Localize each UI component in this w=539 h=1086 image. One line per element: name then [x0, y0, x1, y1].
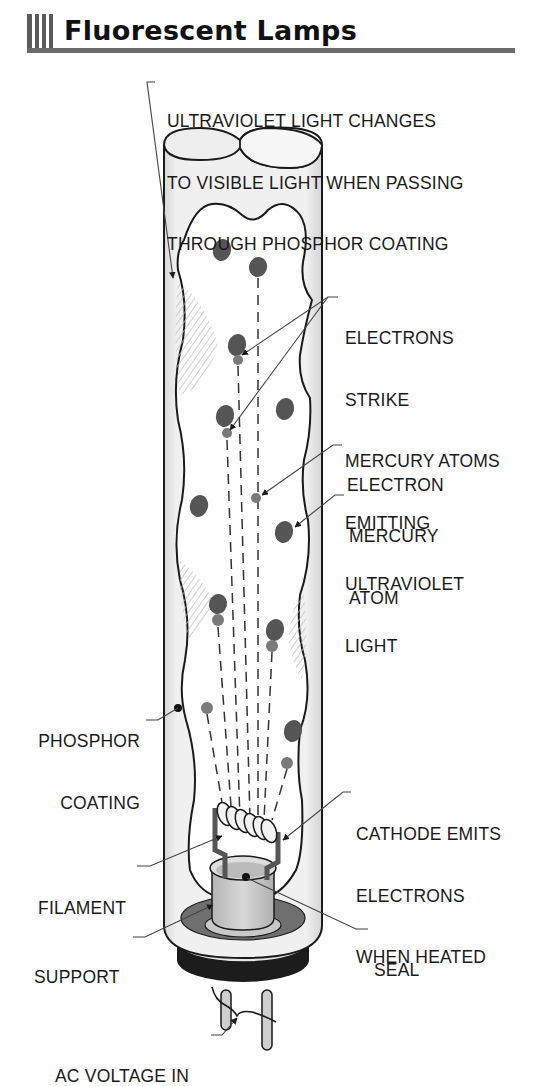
- lamp-pins: [221, 990, 272, 1050]
- electron: [266, 640, 278, 652]
- electron: [251, 493, 261, 503]
- electron: [201, 702, 213, 714]
- label-ultraviolet: ULTRAVIOLET LIGHT CHANGES TO VISIBLE LIG…: [167, 70, 464, 275]
- label-ac-voltage: AC VOLTAGE IN: [55, 1025, 189, 1086]
- label-support: SUPPORT: [34, 926, 120, 1008]
- electron: [281, 757, 293, 769]
- electron: [212, 614, 224, 626]
- label-mercury-atom: MERCURY ATOM: [349, 485, 439, 629]
- label-seal: SEAL: [374, 919, 420, 1001]
- electron: [233, 355, 243, 365]
- label-phosphor-coating: PHOSPHOR COATING: [20, 690, 140, 834]
